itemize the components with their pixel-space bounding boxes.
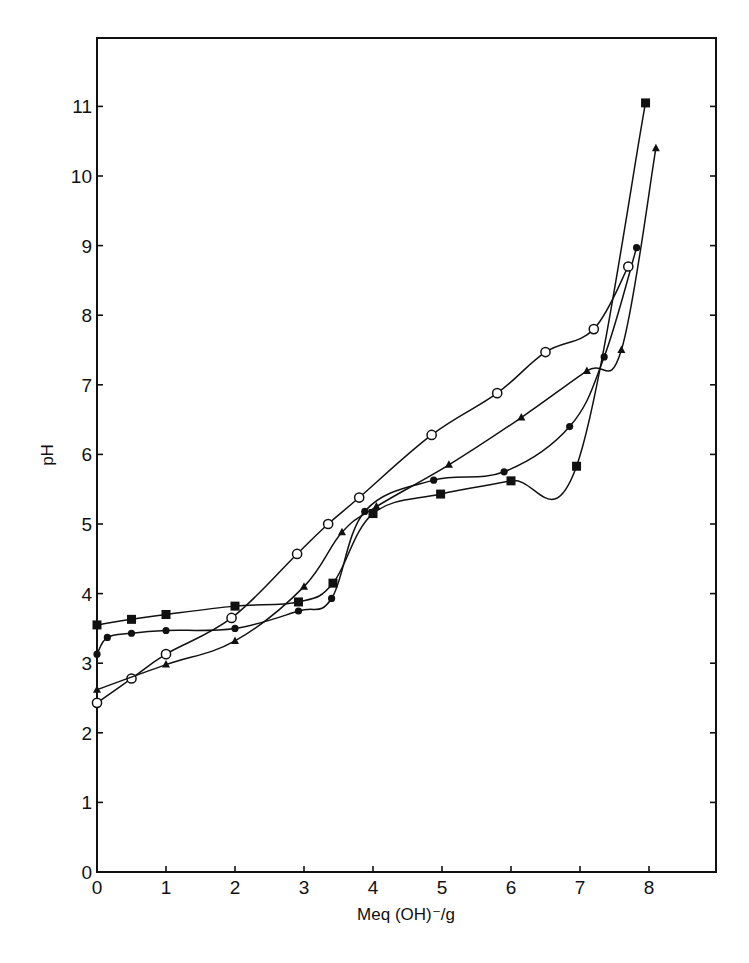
- marker-square: [294, 597, 303, 606]
- series-circle-filled: [93, 244, 640, 658]
- marker-square: [641, 98, 650, 107]
- x-tick-label: 4: [368, 877, 379, 898]
- x-tick-label: 0: [92, 877, 103, 898]
- y-tick-label: 2: [81, 723, 92, 744]
- y-tick-label: 10: [71, 166, 92, 187]
- x-tick-label: 6: [506, 877, 517, 898]
- x-axis-title: Meq (OH)⁻/g: [357, 905, 455, 924]
- marker-filled-circle: [104, 634, 111, 641]
- marker-triangle: [445, 460, 453, 468]
- marker-filled-circle: [601, 353, 608, 360]
- marker-open-circle: [589, 325, 598, 334]
- marker-square: [436, 490, 445, 499]
- series-square-filled: [93, 98, 651, 629]
- figure-caption-ghost: [40, 932, 740, 952]
- marker-filled-circle: [93, 651, 100, 658]
- series-line: [97, 266, 628, 702]
- marker-filled-circle: [162, 627, 169, 634]
- marker-triangle: [652, 144, 660, 152]
- y-tick-label: 1: [81, 792, 92, 813]
- x-tick-label: 1: [161, 877, 172, 898]
- marker-open-circle: [355, 493, 364, 502]
- marker-square: [162, 610, 171, 619]
- marker-open-circle: [493, 389, 502, 398]
- marker-square: [507, 476, 516, 485]
- marker-open-circle: [427, 430, 436, 439]
- x-tick-label: 3: [299, 877, 310, 898]
- marker-filled-circle: [430, 477, 437, 484]
- marker-square: [93, 620, 102, 629]
- y-tick-label: 11: [72, 96, 92, 117]
- x-axis-ticks: 012345678: [92, 866, 655, 898]
- marker-filled-circle: [231, 625, 238, 632]
- marker-filled-circle: [128, 630, 135, 637]
- x-tick-label: 8: [644, 877, 655, 898]
- marker-square: [328, 579, 337, 588]
- y-axis-ticks: 01234567891011: [71, 96, 716, 883]
- marker-open-circle: [161, 650, 170, 659]
- marker-filled-circle: [501, 468, 508, 475]
- marker-open-circle: [624, 262, 633, 271]
- series-circle-open: [92, 262, 633, 708]
- marker-square: [127, 615, 136, 624]
- series-line: [97, 248, 637, 654]
- marker-triangle: [617, 346, 625, 354]
- x-tick-label: 7: [575, 877, 586, 898]
- y-tick-label: 9: [81, 236, 92, 257]
- y-tick-label: 4: [81, 584, 92, 605]
- data-series: [92, 98, 660, 707]
- titration-chart: 01234567891011 012345678 pH Meq (OH)⁻/g: [0, 0, 749, 963]
- marker-open-circle: [92, 698, 101, 707]
- marker-square: [572, 462, 581, 471]
- marker-open-circle: [541, 347, 550, 356]
- series-line: [97, 148, 656, 689]
- y-tick-label: 7: [81, 375, 92, 396]
- marker-filled-circle: [328, 595, 335, 602]
- series-line: [97, 103, 646, 625]
- marker-triangle: [583, 366, 591, 374]
- y-tick-label: 3: [81, 653, 92, 674]
- marker-open-circle: [293, 549, 302, 558]
- marker-square: [231, 602, 240, 611]
- y-tick-label: 0: [81, 862, 92, 883]
- marker-open-circle: [227, 613, 236, 622]
- marker-triangle: [517, 413, 525, 421]
- y-axis-title: pH: [38, 444, 57, 466]
- x-tick-label: 5: [437, 877, 448, 898]
- marker-filled-circle: [633, 244, 640, 251]
- marker-open-circle: [324, 519, 333, 528]
- marker-filled-circle: [566, 423, 573, 430]
- y-tick-label: 8: [81, 305, 92, 326]
- y-tick-label: 5: [81, 514, 92, 535]
- x-tick-label: 2: [230, 877, 241, 898]
- marker-filled-circle: [295, 607, 302, 614]
- series-triangle-filled: [93, 144, 660, 693]
- y-tick-label: 6: [81, 444, 92, 465]
